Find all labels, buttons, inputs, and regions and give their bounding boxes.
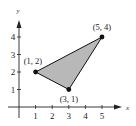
y-axis-arrow-icon — [17, 20, 22, 28]
vertex-point — [66, 87, 71, 92]
coordinate-plane: x y 1 2 3 4 5 1 2 3 4 (1, 2) (3, 1) (5, … — [0, 0, 136, 126]
x-tick-label: 5 — [100, 111, 105, 121]
y-tick-label: 2 — [11, 67, 16, 77]
x-tick-label: 2 — [50, 111, 55, 121]
vertex-label: (1, 2) — [24, 56, 43, 66]
y-ticks: 1 2 3 4 — [11, 32, 21, 95]
y-axis-label: y — [16, 7, 21, 15]
y-tick-label: 3 — [11, 50, 16, 60]
y-tick-label: 4 — [11, 32, 16, 42]
vertex-label: (5, 4) — [93, 22, 112, 32]
x-axis-label: x — [125, 104, 130, 112]
vertex-label: (3, 1) — [60, 94, 79, 104]
vertex-point — [100, 35, 105, 40]
x-tick-label: 4 — [83, 111, 88, 121]
x-tick-label: 1 — [33, 111, 38, 121]
shaded-triangle — [36, 37, 102, 90]
x-tick-label: 3 — [67, 111, 72, 121]
vertex-point — [33, 70, 38, 75]
y-tick-label: 1 — [11, 85, 16, 95]
x-axis-arrow-icon — [114, 105, 122, 110]
